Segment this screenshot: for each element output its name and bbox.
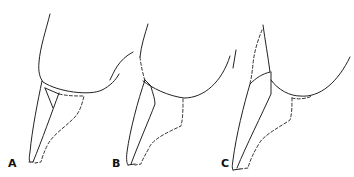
- panel-label-a: A: [8, 158, 17, 169]
- panel-a-drawing: [29, 14, 119, 163]
- diagram-canvas: [0, 0, 354, 177]
- panel-label-b: B: [112, 158, 120, 169]
- panel-label-c: C: [221, 158, 229, 169]
- panel-b-drawing: [110, 24, 230, 165]
- panel-c-drawing: [232, 25, 350, 170]
